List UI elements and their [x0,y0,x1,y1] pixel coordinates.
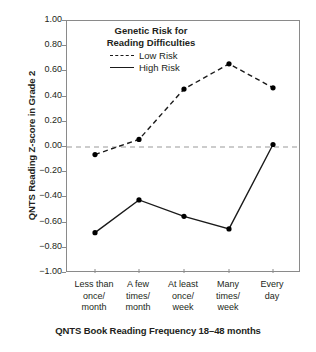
y-tick-label: 0.20 [28,116,62,125]
chart-legend: Genetic Risk for Reading Difficulties Lo… [85,25,235,73]
legend-entry-low-risk: Low Risk [85,50,235,61]
x-axis-tick-labels: Less thanonce/monthA fewtimes/monthAt le… [66,279,300,321]
y-tick-label: −0.80 [28,242,62,251]
y-tick-label: −0.40 [28,191,62,200]
y-tick-label: 1.00 [28,15,62,24]
data-point-high-risk [270,142,275,147]
y-tick-label: 0.60 [28,65,62,74]
y-axis-tick-labels: 1.000.800.600.400.200.00−0.20−0.40−0.60−… [26,0,62,352]
series-line-low-risk [95,64,273,155]
y-tick-label: −1.00 [28,267,62,276]
plot-area: Genetic Risk for Reading Difficulties Lo… [66,20,300,272]
x-tick-label-line: Every [241,279,303,291]
x-tick-label-line: day [241,291,303,303]
data-point-high-risk [92,230,97,235]
y-tick-mark [62,272,66,273]
data-point-high-risk [136,197,141,202]
legend-entry-high-risk: High Risk [85,62,235,73]
data-point-high-risk [181,214,186,219]
data-point-low-risk [270,85,275,90]
data-point-low-risk [136,137,141,142]
data-point-high-risk [226,226,231,231]
y-tick-label: 0.40 [28,91,62,100]
chart-figure: QNTS Reading Z-score in Grade 2 1.000.80… [0,0,316,352]
data-point-low-risk [181,86,186,91]
x-axis-title: QNTS Book Reading Frequency 18–48 months [0,325,316,336]
data-point-low-risk [92,152,97,157]
y-tick-label: 0.80 [28,40,62,49]
legend-title-line-1: Genetic Risk for [85,25,217,37]
legend-solid-line-icon [109,63,135,73]
y-tick-label: −0.20 [28,166,62,175]
x-tick-label-line: week [197,302,259,314]
legend-label-low-risk: Low Risk [139,50,178,61]
series-line-high-risk [95,144,273,232]
legend-dashed-line-icon [109,51,135,61]
x-tick-label: Everyday [241,279,303,302]
y-tick-label: −0.60 [28,217,62,226]
legend-title-line-2: Reading Difficulties [85,37,217,49]
y-tick-label: 0.00 [28,141,62,150]
legend-label-high-risk: High Risk [139,62,180,73]
